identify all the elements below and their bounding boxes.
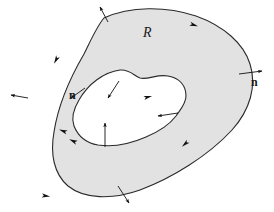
- region-shaded-area: [53, 9, 253, 197]
- outer-normal-left: [11, 95, 28, 98]
- figure-region-with-normals: R n n: [0, 0, 274, 212]
- normal-label-right: n: [251, 76, 258, 88]
- outer-orientation-bottom: [42, 193, 51, 198]
- normal-label-inner: n: [69, 89, 76, 101]
- region-label: R: [143, 26, 152, 40]
- diagram-canvas: [0, 0, 274, 212]
- outer-orientation-upper-left: [52, 55, 60, 64]
